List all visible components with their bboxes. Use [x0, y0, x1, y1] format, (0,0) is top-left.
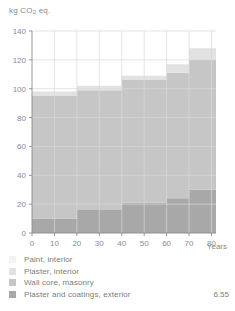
- legend-item-label: Wall core, masonry: [24, 278, 94, 287]
- legend-swatch-icon: [9, 268, 16, 275]
- y-axis-tick-label: 60: [17, 142, 26, 151]
- chart-legend: Paint, interiorPlaster, interiorWall cor…: [9, 254, 231, 300]
- y-axis-title-subscript: 2: [33, 9, 37, 15]
- x-axis-tick-label: 70: [185, 239, 194, 248]
- y-axis-tick-label: 20: [17, 200, 26, 209]
- y-axis-tick-label: 140: [13, 27, 27, 36]
- legend-item-label: Plaster and coatings, exterior: [24, 290, 131, 299]
- y-axis-tick-label: 80: [17, 114, 26, 123]
- legend-item[interactable]: Paint, interior: [9, 254, 231, 266]
- legend-item-label: Paint, interior: [24, 255, 73, 264]
- legend-item-label: Plaster, interior: [24, 267, 79, 276]
- y-axis-tick-label: 40: [17, 171, 26, 180]
- legend-swatch-icon: [9, 291, 16, 298]
- x-axis-label: Years: [207, 242, 227, 251]
- y-axis-title: kg CO2 eq.: [9, 6, 50, 15]
- x-axis-tick-label: 20: [72, 239, 81, 248]
- x-axis-tick-label: 10: [50, 239, 59, 248]
- legend-item[interactable]: Wall core, masonry: [9, 277, 231, 289]
- y-axis-tick-label: 0: [22, 229, 27, 238]
- y-axis-tick-label: 120: [13, 56, 27, 65]
- x-axis-tick-label: 60: [162, 239, 171, 248]
- legend-item[interactable]: Plaster, interior: [9, 266, 231, 278]
- legend-swatch-icon: [9, 279, 16, 286]
- y-axis-title-prefix: kg CO: [9, 6, 33, 15]
- legend-item[interactable]: Plaster and coatings, exterior6.55: [9, 289, 231, 301]
- plot-area: 02040608010012014001020304050607080: [0, 0, 235, 250]
- y-axis-title-suffix: eq.: [36, 6, 50, 15]
- legend-item-value: 6.55: [213, 290, 231, 299]
- legend-swatch-icon: [9, 256, 16, 263]
- x-axis-tick-label: 30: [95, 239, 104, 248]
- x-axis-tick-label: 50: [140, 239, 149, 248]
- x-axis-tick-label: 0: [30, 239, 35, 248]
- chart-container: kg CO2 eq. 02040608010012014001020304050…: [0, 0, 235, 311]
- y-axis-tick-label: 100: [13, 85, 27, 94]
- x-axis-tick-label: 40: [117, 239, 126, 248]
